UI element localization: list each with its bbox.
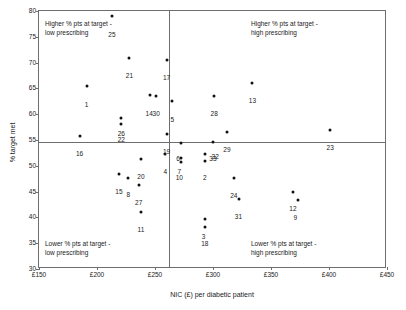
vertical-reference-line [169,11,170,267]
y-tick-mark [36,37,39,38]
data-point-label: 18 [201,241,208,248]
y-tick-mark [36,192,39,193]
y-axis-label: % target met [9,93,16,193]
data-point-label: 21 [126,73,133,80]
data-point [203,217,206,220]
data-point-label: 28 [210,111,217,118]
data-point-label: 8 [126,192,130,199]
x-tick-mark [271,267,272,270]
y-tick-label: 40 [29,214,36,221]
x-tick-mark [39,267,40,270]
data-point-label: 32 [212,154,219,161]
quadrant-note-bottom-right: Lower % pts at target - high prescribing [251,239,316,258]
data-point [137,184,140,187]
x-tick-label: £150 [32,272,46,279]
y-tick-mark [36,166,39,167]
data-point [296,199,299,202]
x-axis-label: NIC (£) per diabetic patient [38,291,386,298]
data-point-label: 16 [76,151,83,158]
data-point [212,140,215,143]
data-point [120,123,123,126]
x-tick-label: £300 [206,272,220,279]
x-tick-mark [97,267,98,270]
y-tick-label: 55 [29,137,36,144]
y-tick-mark [36,140,39,141]
data-point-label: 22 [118,137,125,144]
data-point [140,158,143,161]
x-tick-mark [155,267,156,270]
data-point [203,153,206,156]
data-point [237,197,240,200]
data-point [118,173,121,176]
data-point-label: 15 [115,189,122,196]
x-tick-label: £250 [148,272,162,279]
data-point-label: 23 [326,145,333,152]
data-point [149,93,152,96]
data-point [164,152,167,155]
quadrant-note-bottom-left: Lower % pts at target - low prescribing [45,239,110,258]
data-point [179,156,182,159]
data-point [329,129,332,132]
quadrant-note-top-right: Higher % pts at target - high prescribin… [251,19,318,38]
x-tick-label: £400 [322,272,336,279]
data-point [120,116,123,119]
x-tick-label: £450 [380,272,394,279]
data-point [85,85,88,88]
data-point [155,95,158,98]
data-point-label: 12 [289,206,296,213]
plot-area: 2521171311430285262223291916633432710220… [38,10,386,268]
data-point-label: 31 [235,214,242,221]
x-tick-mark [387,267,388,270]
data-point-label: 9 [294,215,298,222]
y-tick-label: 75 [29,34,36,41]
data-point-label: 29 [223,147,230,154]
y-tick-label: 80 [29,8,36,15]
data-point [251,81,254,84]
data-point [165,58,168,61]
data-point [165,133,168,136]
data-point [203,159,206,162]
quadrant-note-top-left: Higher % pts at target - low prescribing [45,19,112,38]
data-point-label: 30 [152,111,159,118]
data-point [225,131,228,134]
x-tick-label: £200 [90,272,104,279]
scatter-chart: 2521171311430285262223291916633432710220… [0,0,406,310]
data-point [111,14,114,17]
data-point [292,190,295,193]
x-tick-label: £350 [264,272,278,279]
y-tick-mark [36,217,39,218]
x-tick-mark [329,267,330,270]
data-point [232,177,235,180]
data-point-label: 20 [137,174,144,181]
y-tick-label: 70 [29,59,36,66]
data-point [203,226,206,229]
data-point-label: 27 [135,200,142,207]
data-point-label: 10 [176,175,183,182]
data-point-label: 4 [164,169,168,176]
y-tick-label: 35 [29,240,36,247]
data-point [140,210,143,213]
x-tick-mark [213,267,214,270]
data-point [128,56,131,59]
y-tick-mark [36,63,39,64]
data-point-label: 1 [85,102,89,109]
y-tick-label: 50 [29,163,36,170]
data-point [78,134,81,137]
data-point-label: 17 [163,75,170,82]
data-point-label: 5 [171,117,175,124]
y-tick-mark [36,243,39,244]
y-tick-mark [36,88,39,89]
data-point [171,100,174,103]
y-tick-label: 65 [29,85,36,92]
y-tick-label: 45 [29,188,36,195]
y-tick-mark [36,114,39,115]
y-tick-mark [36,11,39,12]
data-point-label: 11 [138,227,145,234]
data-point [179,161,182,164]
data-point-label: 2 [203,175,207,182]
y-tick-label: 60 [29,111,36,118]
data-point [213,94,216,97]
data-point-label: 13 [249,98,256,105]
data-point [179,141,182,144]
data-point [127,176,130,179]
